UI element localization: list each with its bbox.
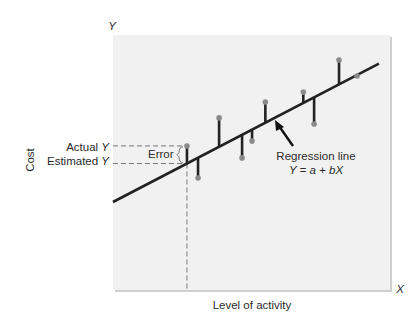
y-symbol: Y (101, 155, 110, 167)
data-point (263, 99, 269, 105)
actual-y-label: Actual Y (66, 141, 110, 153)
data-point (239, 155, 245, 161)
data-point (184, 143, 190, 149)
regression-line-label: Regression line (276, 150, 355, 162)
plot-area (113, 35, 390, 290)
regression-chart: Y X Level of activity Cost Actual Y Esti… (0, 0, 420, 325)
estimated-y-label: Estimated Y (47, 155, 110, 167)
y-axis-label: Cost (24, 147, 36, 171)
data-point (354, 73, 360, 79)
y-symbol: Y (101, 141, 110, 153)
x-axis-label: Level of activity (213, 299, 292, 311)
actual-y-text: Actual (66, 141, 101, 153)
data-point (300, 89, 306, 95)
data-point (249, 138, 255, 144)
regression-equation-label: Y = a + bX (289, 164, 344, 176)
data-point (311, 121, 317, 127)
y-axis-symbol: Y (108, 20, 117, 32)
data-point (216, 115, 222, 121)
data-point (195, 175, 201, 181)
data-point (336, 57, 342, 63)
x-axis-symbol: X (395, 283, 405, 295)
estimated-y-text: Estimated (47, 155, 101, 167)
error-label: Error (148, 148, 174, 160)
